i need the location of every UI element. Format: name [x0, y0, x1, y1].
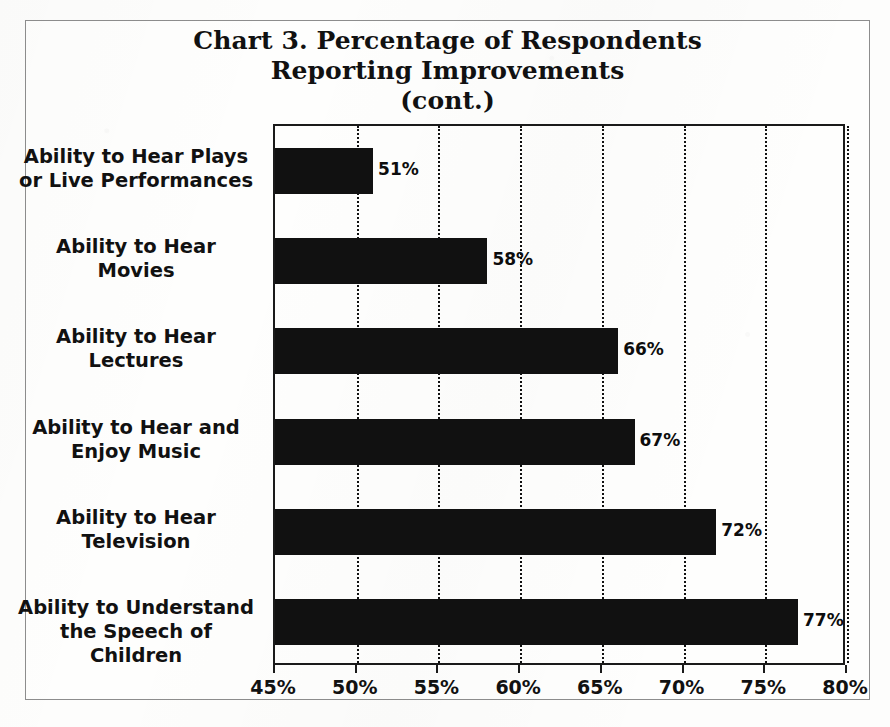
category-label-movies: Ability to Hear Movies: [13, 235, 259, 283]
category-label-line: Ability to Hear and: [13, 416, 259, 440]
category-label-speech-of-children: Ability to Understand the Speech of Chil…: [13, 596, 259, 668]
gridline: [438, 126, 440, 663]
x-axis-tick: [763, 665, 765, 673]
x-axis-tick-label: 55%: [401, 676, 471, 698]
x-axis-tick: [355, 665, 357, 673]
bar: [275, 509, 716, 555]
bar: [275, 238, 487, 284]
chart-page: Chart 3. Percentage of Respondents Repor…: [0, 0, 890, 727]
category-label-lectures: Ability to Hear Lectures: [13, 325, 259, 373]
x-axis-tick: [845, 665, 847, 673]
chart-title-line-2: Reporting Improvements: [25, 56, 870, 86]
x-axis-tick: [436, 665, 438, 673]
chart-title-line-3: (cont.): [25, 86, 870, 116]
x-axis-tick-label: 80%: [810, 676, 880, 698]
bar-value-label: 58%: [492, 236, 533, 282]
category-label-television: Ability to Hear Television: [13, 506, 259, 554]
x-axis-tick-label: 75%: [728, 676, 798, 698]
gridline: [684, 126, 686, 663]
category-label-line: Lectures: [13, 349, 259, 373]
x-axis-tick-label: 45%: [238, 676, 308, 698]
x-axis-tick: [600, 665, 602, 673]
category-label-line: the Speech of Children: [13, 620, 259, 668]
x-axis-tick-label: 65%: [565, 676, 635, 698]
bar: [275, 328, 618, 374]
bar-value-label: 51%: [378, 146, 419, 192]
x-axis-tick: [682, 665, 684, 673]
gridline: [765, 126, 767, 663]
x-axis-tick: [273, 665, 275, 673]
bar: [275, 148, 373, 194]
category-label-line: or Live Performances: [13, 169, 259, 193]
category-label-line: Enjoy Music: [13, 440, 259, 464]
category-label-line: Ability to Understand: [13, 596, 259, 620]
bar-value-label: 77%: [803, 597, 844, 643]
chart-title-line-1: Chart 3. Percentage of Respondents: [25, 26, 870, 56]
category-label-plays-live-performances: Ability to Hear Plays or Live Performanc…: [13, 145, 259, 193]
category-label-line: Ability to Hear: [13, 325, 259, 349]
gridline: [847, 126, 849, 663]
bar: [275, 419, 635, 465]
category-label-line: Ability to Hear: [13, 506, 259, 530]
category-label-line: Television: [13, 530, 259, 554]
x-axis-tick: [518, 665, 520, 673]
bar-value-label: 72%: [721, 507, 762, 553]
plot-area: [273, 124, 845, 665]
category-label-line: Movies: [13, 259, 259, 283]
bar-value-label: 66%: [623, 326, 664, 372]
gridline: [357, 126, 359, 663]
bar-value-label: 67%: [640, 417, 681, 463]
gridline: [602, 126, 604, 663]
category-label-enjoy-music: Ability to Hear and Enjoy Music: [13, 416, 259, 464]
x-axis-tick-label: 50%: [320, 676, 390, 698]
category-label-line: Ability to Hear Plays: [13, 145, 259, 169]
x-axis-tick-label: 60%: [483, 676, 553, 698]
chart-title: Chart 3. Percentage of Respondents Repor…: [25, 26, 870, 116]
gridline: [520, 126, 522, 663]
bar: [275, 599, 798, 645]
x-axis-tick-label: 70%: [647, 676, 717, 698]
category-label-line: Ability to Hear: [13, 235, 259, 259]
